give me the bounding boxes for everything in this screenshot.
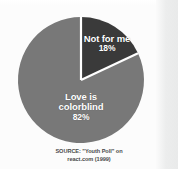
slice-label-love-is-colorblind-value: 82% — [44, 113, 118, 122]
slice-label-love-is-colorblind-line2: colorblind — [44, 102, 118, 112]
slice-label-not-for-me: Not for me 18% — [74, 34, 140, 53]
slice-label-not-for-me-value: 18% — [74, 44, 140, 53]
scanned-page-canvas: Not for me 18% Love is colorblind 82% SO… — [0, 0, 178, 184]
slice-label-love-is-colorblind: Love is colorblind 82% — [44, 92, 118, 122]
source-caption-line2: react.com (1999) — [24, 156, 154, 164]
pie-chart: Not for me 18% Love is colorblind 82% SO… — [0, 0, 178, 184]
source-caption-line1: SOURCE: "Youth Poll" on — [24, 148, 154, 156]
source-caption: SOURCE: "Youth Poll" on react.com (1999) — [24, 148, 154, 163]
